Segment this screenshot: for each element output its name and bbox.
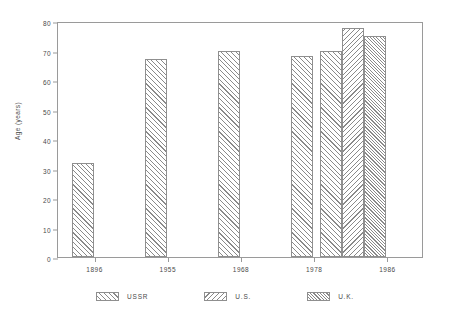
x-axis-tick-mark — [387, 257, 388, 262]
bar-1896-ussr — [72, 163, 94, 257]
y-axis-tick-mark — [53, 229, 58, 230]
legend-label: U.K. — [338, 293, 354, 300]
y-axis-tick-mark — [53, 111, 58, 112]
y-axis-label: Age (years) — [14, 102, 21, 140]
legend-item-ussr: USSR — [96, 292, 148, 301]
x-axis-tick-label: 1968 — [233, 266, 249, 273]
bar-1986-uk — [364, 36, 386, 257]
legend-label: USSR — [127, 293, 148, 300]
bar-chart: Age (years) 0102030405060708018961955196… — [0, 0, 450, 323]
y-axis-tick-mark — [53, 23, 58, 24]
bar-1978-ussr — [291, 56, 313, 257]
legend-swatch-icon — [96, 292, 119, 301]
plot-frame: 0102030405060708018961955196819781986 — [57, 22, 423, 258]
y-axis-tick-mark — [53, 82, 58, 83]
legend-item-us: U.S. — [204, 292, 251, 301]
x-axis-tick-label: 1978 — [306, 266, 322, 273]
bar-1986-us — [342, 28, 364, 257]
x-axis-tick-mark — [95, 257, 96, 262]
bar-1986-ussr — [320, 51, 342, 258]
chart-legend: USSRU.S.U.K. — [0, 292, 450, 301]
x-axis-tick-label: 1986 — [379, 266, 395, 273]
legend-item-uk: U.K. — [307, 292, 354, 301]
x-axis-tick-label: 1896 — [86, 266, 102, 273]
bar-1968-ussr — [218, 51, 240, 258]
y-axis-tick-mark — [53, 141, 58, 142]
y-axis-tick-mark — [53, 200, 58, 201]
plot-area — [58, 23, 422, 257]
legend-swatch-icon — [204, 292, 227, 301]
x-axis-tick-mark — [314, 257, 315, 262]
legend-label: U.S. — [235, 293, 251, 300]
legend-swatch-icon — [307, 292, 330, 301]
y-axis-tick-mark — [53, 52, 58, 53]
x-axis-tick-label: 1955 — [160, 266, 176, 273]
y-axis-tick-mark — [53, 259, 58, 260]
x-axis-tick-mark — [168, 257, 169, 262]
bar-1955-ussr — [145, 59, 167, 257]
y-axis-tick-mark — [53, 170, 58, 171]
x-axis-tick-mark — [241, 257, 242, 262]
